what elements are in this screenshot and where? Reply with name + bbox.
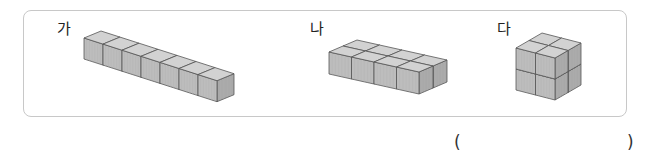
- figure-da-cubes: [516, 33, 581, 100]
- answer-blank[interactable]: [466, 132, 622, 154]
- answer-open-paren: (: [454, 134, 461, 151]
- figure-ga-cubes: [84, 31, 234, 102]
- figure-na-cubes: [329, 40, 447, 94]
- answer-close-paren: ): [627, 134, 634, 151]
